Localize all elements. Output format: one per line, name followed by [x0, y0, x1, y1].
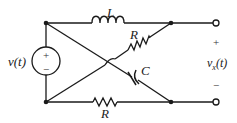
terminal-bottom: [213, 99, 219, 105]
circuit-diagram: + − v(t) L R C R + vx(t) −: [0, 0, 237, 123]
wire-diag-res-a: [46, 65, 105, 102]
wire-diag-res-b: [115, 50, 128, 59]
source-plus-sign: +: [43, 50, 49, 61]
output-plus-sign: +: [213, 37, 219, 48]
terminal-top: [213, 20, 219, 26]
output-minus-sign: −: [213, 80, 219, 91]
resistor-top-label: R: [130, 28, 138, 41]
wire-crossover-hop: [105, 59, 115, 65]
resistor-bottom-icon: [93, 98, 117, 106]
wire-diag-cap-b: [138, 80, 171, 102]
output-label-suffix: (t): [216, 56, 227, 70]
source-label: v(t): [8, 55, 26, 68]
node-top-left: [44, 21, 49, 26]
resistor-bottom-label: R: [101, 107, 109, 120]
output-label: vx(t): [207, 57, 227, 72]
wire-diag-cap-a: [46, 23, 132, 77]
node-bottom-right: [169, 100, 174, 105]
capacitor-label: C: [141, 64, 150, 77]
source-minus-sign: −: [43, 64, 49, 75]
circuit-schematic: [0, 0, 237, 123]
capacitor-plate-b: [135, 70, 139, 84]
node-bottom-left: [44, 100, 49, 105]
inductor-label: L: [107, 6, 114, 19]
wire-diag-res-c: [150, 23, 171, 37]
node-top-right: [169, 21, 174, 26]
